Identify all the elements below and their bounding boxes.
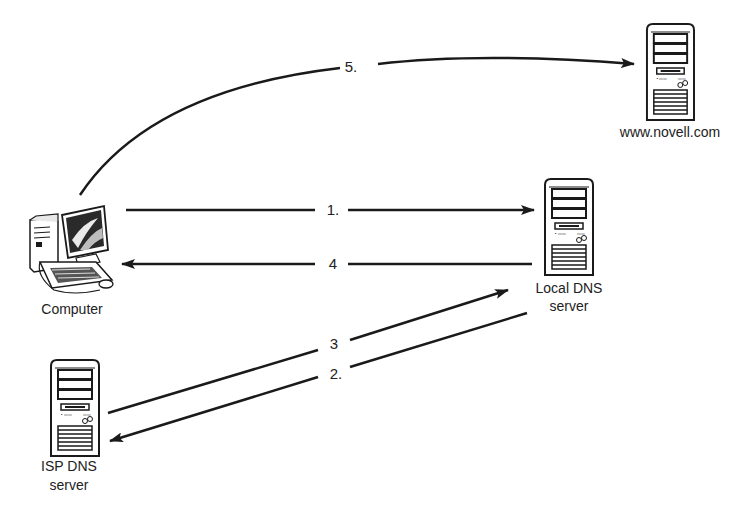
edge-2-line-a [350, 313, 527, 367]
node-web-server-label: www.novell.com [619, 124, 720, 140]
node-computer: Computer [30, 206, 113, 317]
edge-5: 5. [80, 58, 634, 195]
edge-2-label: 2. [330, 365, 343, 382]
node-local-dns-label-line2: server [550, 298, 589, 314]
edge-3-line-a [108, 350, 318, 413]
node-computer-label: Computer [41, 301, 103, 317]
edge-4: 4 [122, 255, 532, 272]
edge-5-label: 5. [345, 58, 358, 75]
node-local-dns-label-line1: Local DNS [536, 280, 603, 296]
edge-2: 2. [110, 313, 527, 441]
dns-diagram: ▪ ▭▭ ▭▭ 5. 1. 4 3 [0, 0, 755, 521]
edge-4-label: 4 [329, 255, 337, 272]
edge-1: 1. [126, 201, 534, 218]
edge-3-label: 3 [330, 335, 338, 352]
node-web-server: www.novell.com [619, 24, 720, 140]
edge-5-line-b [378, 58, 634, 64]
node-isp-dns-label-line1: ISP DNS [41, 458, 97, 474]
node-isp-dns: ISP DNS server [41, 360, 99, 493]
desktop-computer-icon [30, 206, 113, 293]
server-tower-icon [51, 360, 99, 456]
edge-3-line-b [350, 290, 508, 340]
node-isp-dns-label-line2: server [50, 477, 89, 493]
edge-1-label: 1. [327, 201, 340, 218]
server-tower-icon [647, 24, 694, 120]
edge-3: 3 [108, 290, 508, 413]
node-local-dns: Local DNS server [536, 179, 603, 314]
edge-5-line-a [80, 68, 340, 195]
edge-2-line-b [110, 377, 318, 441]
server-tower-icon [545, 179, 593, 275]
